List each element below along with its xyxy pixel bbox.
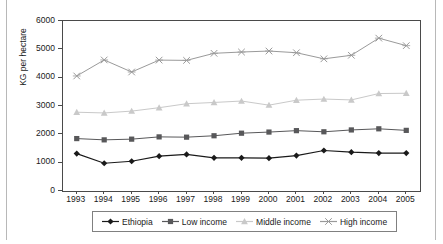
chart-legend: EthiopiaLow incomeMiddle incomeHigh inco… bbox=[92, 211, 397, 232]
data-point-diamond bbox=[183, 151, 189, 157]
data-point-square bbox=[74, 136, 79, 141]
data-point-diamond bbox=[321, 147, 327, 153]
data-point-diamond bbox=[129, 158, 135, 164]
series-line bbox=[77, 38, 407, 76]
legend-label: Low income bbox=[182, 217, 227, 227]
data-point-cross bbox=[183, 57, 191, 64]
y-axis-tick-label: 2000 bbox=[21, 129, 55, 137]
data-point-cross bbox=[238, 49, 246, 56]
data-point-square bbox=[184, 135, 189, 140]
series-ethiopia bbox=[74, 147, 410, 166]
data-point-square bbox=[168, 219, 173, 224]
data-point-diamond bbox=[101, 160, 107, 166]
data-point-cross bbox=[100, 57, 108, 64]
data-point-diamond bbox=[348, 149, 354, 155]
x-axis-tick-label: 2005 bbox=[387, 195, 423, 204]
data-point-diamond bbox=[238, 155, 244, 161]
data-point-diamond bbox=[156, 153, 162, 159]
series-layer bbox=[63, 21, 420, 191]
legend-marker-diamond-icon bbox=[102, 217, 119, 226]
legend-item-middle-income[interactable]: Middle income bbox=[236, 217, 311, 227]
data-point-cross bbox=[375, 35, 383, 42]
data-point-cross bbox=[128, 69, 136, 76]
y-axis-tick-label: 3000 bbox=[21, 101, 55, 109]
data-point-cross bbox=[73, 73, 81, 80]
series-low-income bbox=[74, 126, 409, 142]
data-point-cross bbox=[347, 52, 355, 59]
data-point-diamond bbox=[403, 150, 409, 156]
data-point-cross bbox=[402, 42, 410, 49]
y-axis-tick-label: 4000 bbox=[21, 72, 55, 80]
data-point-square bbox=[157, 134, 162, 139]
data-point-cross bbox=[293, 49, 301, 56]
data-point-square bbox=[404, 128, 409, 133]
data-point-diamond bbox=[107, 218, 113, 224]
data-point-cross bbox=[210, 50, 218, 57]
legend-item-ethiopia[interactable]: Ethiopia bbox=[102, 217, 153, 227]
data-point-cross bbox=[265, 48, 273, 55]
y-axis-tick-label: 5000 bbox=[21, 44, 55, 52]
legend-label: High income bbox=[340, 217, 387, 227]
legend-item-high-income[interactable]: High income bbox=[320, 217, 387, 227]
data-point-square bbox=[376, 126, 381, 131]
data-point-diamond bbox=[74, 151, 80, 157]
legend-label: Middle income bbox=[256, 217, 311, 227]
series-middle-income bbox=[73, 90, 409, 116]
data-point-square bbox=[211, 133, 216, 138]
line-chart: KG per hectare 0100020003000400050006000… bbox=[0, 0, 443, 244]
data-point-cross bbox=[320, 56, 328, 63]
data-point-square bbox=[349, 127, 354, 132]
legend-marker-triangle-icon bbox=[236, 217, 253, 226]
y-axis-tick-label: 1000 bbox=[21, 157, 55, 165]
data-point-diamond bbox=[293, 152, 299, 158]
data-point-diamond bbox=[376, 150, 382, 156]
data-point-square bbox=[294, 128, 299, 133]
legend-marker-cross-icon bbox=[320, 217, 337, 226]
y-axis-tick-label: 0 bbox=[21, 186, 55, 194]
data-point-cross bbox=[155, 57, 163, 64]
legend-marker-square-icon bbox=[162, 217, 179, 226]
data-point-square bbox=[102, 137, 107, 142]
data-point-cross bbox=[324, 218, 332, 225]
data-point-diamond bbox=[211, 155, 217, 161]
legend-label: Ethiopia bbox=[122, 217, 153, 227]
data-point-square bbox=[266, 129, 271, 134]
data-point-square bbox=[129, 137, 134, 142]
plot-area bbox=[62, 20, 421, 192]
y-axis-tick-label: 6000 bbox=[21, 16, 55, 24]
data-point-diamond bbox=[266, 155, 272, 161]
legend-item-low-income[interactable]: Low income bbox=[162, 217, 227, 227]
series-high-income bbox=[73, 35, 410, 79]
data-point-square bbox=[321, 129, 326, 134]
data-point-square bbox=[239, 131, 244, 136]
